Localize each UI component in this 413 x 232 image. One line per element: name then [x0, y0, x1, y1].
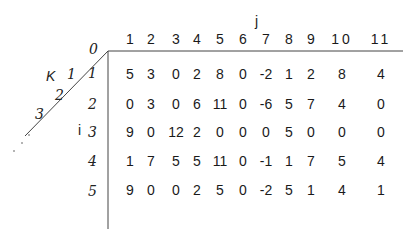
table-cell: 0 — [231, 182, 255, 198]
table-cell: 0 — [330, 124, 354, 140]
col-axis-label: j — [255, 13, 258, 29]
diag-tick-2: 2 — [55, 87, 64, 103]
table-cell: 5 — [277, 182, 301, 198]
table-cell: 0 — [369, 96, 393, 112]
table-cell: 0 — [299, 124, 323, 140]
table-cell: -2 — [254, 182, 278, 198]
col-header: 2 — [139, 31, 163, 47]
table-cell: 1 — [369, 182, 393, 198]
diag-axis-label: K — [46, 68, 55, 84]
table-cell: 0 — [139, 182, 163, 198]
table-cell: 4 — [369, 153, 393, 169]
table-cell: 0 — [254, 124, 278, 140]
table-cell: 7 — [299, 96, 323, 112]
table-cell: 1 — [299, 182, 323, 198]
table-cell: -1 — [254, 153, 278, 169]
table-cell: 2 — [185, 66, 209, 82]
row-axis-label: i — [78, 122, 81, 138]
col-header: 4 — [185, 31, 209, 47]
col-header: 9 — [299, 31, 323, 47]
ellipsis-dot — [28, 134, 30, 136]
row-header: 4 — [88, 153, 97, 169]
table-cell: 1 — [277, 153, 301, 169]
corner-zero: 0 — [89, 41, 98, 57]
table-cell: 0 — [231, 96, 255, 112]
table-cell: 5 — [330, 153, 354, 169]
diag-tick-3: 3 — [35, 106, 44, 122]
table-cell: 1 — [277, 66, 301, 82]
row-header: 1 — [88, 65, 97, 81]
table-cell: 7 — [139, 153, 163, 169]
table-cell: 11 — [208, 153, 232, 169]
table-cell: 6 — [185, 96, 209, 112]
table-cell: 8 — [208, 66, 232, 82]
table-cell: 8 — [330, 66, 354, 82]
col-header: 7 — [254, 31, 278, 47]
table-cell: 5 — [277, 96, 301, 112]
table-cell: 2 — [185, 182, 209, 198]
table-cell: 0 — [231, 66, 255, 82]
row-header: 2 — [88, 96, 97, 112]
table-cell: 0 — [231, 124, 255, 140]
table-cell: 2 — [185, 124, 209, 140]
table-cell: 0 — [369, 124, 393, 140]
table-cell: 4 — [369, 66, 393, 82]
table-cell: 5 — [208, 182, 232, 198]
table-cell: 2 — [299, 66, 323, 82]
ellipsis-dot — [13, 150, 15, 152]
table-cell: 7 — [299, 153, 323, 169]
col-header: 5 — [208, 31, 232, 47]
row-header: 5 — [88, 183, 97, 199]
table-cell: 0 — [139, 124, 163, 140]
col-header: 10 — [330, 31, 354, 47]
table-cell: -2 — [254, 66, 278, 82]
col-header: 8 — [277, 31, 301, 47]
table-cell: 5 — [185, 153, 209, 169]
table-cell: 4 — [330, 182, 354, 198]
table-cell: 3 — [139, 96, 163, 112]
table-cell: 0 — [231, 153, 255, 169]
row-header: 3 — [88, 124, 97, 140]
col-header: 6 — [231, 31, 255, 47]
table-cell: -6 — [254, 96, 278, 112]
col-header: 11 — [369, 31, 393, 47]
diag-tick-1: 1 — [67, 66, 76, 82]
table-cell: 4 — [330, 96, 354, 112]
table-cell: 11 — [208, 96, 232, 112]
ellipsis-dot — [21, 142, 23, 144]
table-cell: 5 — [277, 124, 301, 140]
table-cell: 0 — [208, 124, 232, 140]
table-cell: 3 — [139, 66, 163, 82]
